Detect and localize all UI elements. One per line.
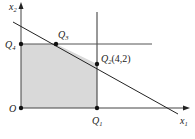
Q3-label: Q3 — [58, 29, 69, 41]
point-Q4 — [19, 42, 23, 46]
x2-axis-arrow-icon — [19, 2, 24, 9]
Q4-label: Q4 — [5, 39, 16, 51]
point-Q3 — [54, 42, 58, 46]
point-Q1 — [95, 106, 99, 110]
feasible-region — [21, 44, 97, 108]
point-Q2 — [95, 62, 99, 66]
point-O — [19, 106, 23, 110]
x2-axis-label: x2 — [8, 1, 17, 13]
Q2-label: Q2(4,2) — [101, 53, 131, 65]
x1-axis-label: x1 — [179, 115, 188, 127]
x1-axis-arrow-icon — [183, 106, 190, 111]
origin-label: O — [9, 103, 16, 114]
diagram-canvas: x2 x1 O Q1 Q2(4,2) Q3 Q4 — [0, 0, 195, 139]
Q1-label: Q1 — [92, 115, 102, 127]
